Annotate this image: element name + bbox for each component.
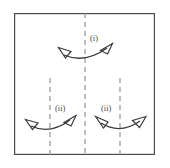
label-step-i: (i) bbox=[90, 33, 98, 43]
label-step-ii-right: (ii) bbox=[101, 103, 112, 113]
label-step-ii-left: (ii) bbox=[55, 103, 66, 113]
paper-folding-figure: (i) (ii) (ii) bbox=[0, 0, 170, 168]
figure-canvas: (i) (ii) (ii) bbox=[0, 0, 170, 168]
